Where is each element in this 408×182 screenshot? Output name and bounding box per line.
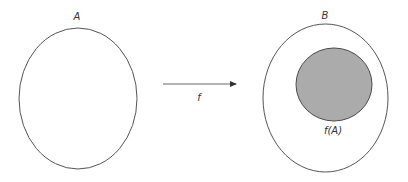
set-a: A <box>19 11 137 169</box>
set-a-ellipse <box>19 28 137 169</box>
mapping-arrow: f <box>163 84 236 103</box>
image-set-ellipse <box>296 48 372 121</box>
image-set-label: f(A) <box>324 125 342 136</box>
function-mapping-diagram: A f B f(A) <box>0 0 408 182</box>
set-a-label: A <box>73 11 81 22</box>
set-b: B f(A) <box>263 10 388 172</box>
arrow-label: f <box>197 92 202 103</box>
set-b-label: B <box>322 10 329 21</box>
